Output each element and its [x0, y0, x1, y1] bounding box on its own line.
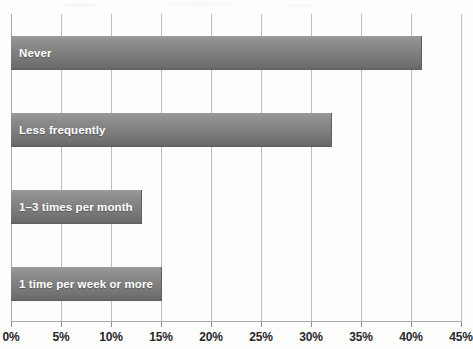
x-tick-label: 25% [249, 330, 272, 344]
bar-category-label: Never [11, 47, 51, 59]
bar[interactable]: Less frequently [11, 113, 332, 147]
x-tick-label: 10% [99, 330, 122, 344]
x-tick-label: 40% [399, 330, 422, 344]
gridline-45pct [461, 14, 462, 322]
bar[interactable]: Never [11, 36, 422, 70]
tick-mark-20pct [211, 322, 212, 327]
x-tick-label: 45% [449, 330, 472, 344]
tick-mark-0pct [11, 322, 12, 327]
tick-mark-10pct [111, 322, 112, 327]
tick-mark-25pct [261, 322, 262, 327]
x-tick-label: 5% [53, 330, 70, 344]
plot-area: NeverLess frequently1–3 times per month1… [11, 14, 461, 322]
bar[interactable]: 1–3 times per month [11, 190, 142, 224]
bar-category-label: 1 time per week or more [11, 278, 153, 290]
x-axis-line [11, 321, 461, 322]
tick-mark-15pct [161, 322, 162, 327]
tick-mark-40pct [411, 322, 412, 327]
x-tick-label: 0% [3, 330, 20, 344]
tick-mark-35pct [361, 322, 362, 327]
bar-category-label: Less frequently [11, 124, 106, 136]
scan-artifact [0, 0, 473, 13]
tick-mark-45pct [461, 322, 462, 327]
tick-mark-5pct [61, 322, 62, 327]
bar-chart: NeverLess frequently1–3 times per month1… [0, 0, 473, 349]
x-tick-label: 35% [349, 330, 372, 344]
x-tick-label: 30% [299, 330, 322, 344]
tick-mark-30pct [311, 322, 312, 327]
bar[interactable]: 1 time per week or more [11, 267, 162, 301]
bar-category-label: 1–3 times per month [11, 201, 133, 213]
x-tick-label: 20% [199, 330, 222, 344]
x-tick-label: 15% [149, 330, 172, 344]
